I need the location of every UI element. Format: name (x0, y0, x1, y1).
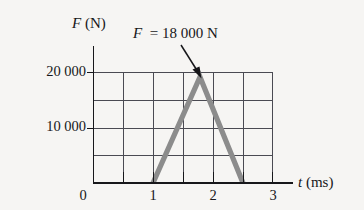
x-axis-title: t (ms) (298, 175, 333, 190)
annotation-body: = 18 000 N (150, 25, 218, 41)
x-axis-variable: t (298, 174, 302, 190)
peak-force-annotation: F = 18 000 N (133, 26, 218, 41)
y-axis-ticks (87, 73, 93, 129)
force-vs-time-chart: F (N) F = 18 000 N 20 000 10 000 0 1 2 3… (0, 0, 364, 210)
x-tick-label-0: 0 (73, 188, 93, 203)
x-tick-label-2: 2 (203, 188, 223, 203)
y-tick-label-20000: 20 000 (24, 64, 86, 79)
y-axis-title: F (N) (72, 16, 106, 31)
x-axis-unit: (ms) (306, 174, 334, 190)
arrow-shaft (181, 45, 198, 72)
x-tick-label-1: 1 (143, 188, 163, 203)
peak-annotation-arrow (181, 45, 202, 79)
y-axis-variable: F (72, 15, 81, 31)
x-axis-ticks (94, 172, 273, 183)
annotation-variable: F (133, 25, 142, 41)
x-tick-label-3: 3 (263, 188, 283, 203)
y-tick-label-10000: 10 000 (24, 119, 86, 134)
y-axis-unit: (N) (85, 15, 106, 31)
grid-vertical-lines (124, 72, 273, 183)
force-pulse-curve (153, 77, 243, 183)
